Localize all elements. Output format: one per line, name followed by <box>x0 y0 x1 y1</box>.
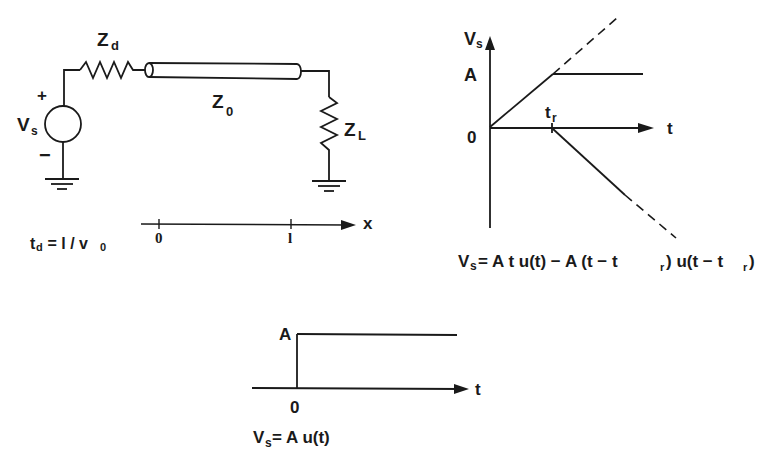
ramp-amplitude-label: A <box>464 65 477 85</box>
x-tick-l: l <box>288 230 292 246</box>
ramp-x-label: t <box>667 119 673 138</box>
ramp-formula-r1: r <box>660 261 665 273</box>
ramp-formula-sub: s <box>470 259 477 273</box>
ramp-formula-v: V <box>458 252 470 271</box>
ramp-y-label-sub: s <box>476 37 483 51</box>
ramp-y-label: V <box>464 29 476 49</box>
ramp-formula-r2: r <box>743 261 748 273</box>
ramp-x-arrow-icon <box>638 123 654 133</box>
driver-impedance-sub: d <box>111 38 119 53</box>
step-plot: A 0 t V s = A u(t) <box>252 325 481 450</box>
driver-impedance-label: Z <box>97 29 109 50</box>
load-resistor-icon <box>321 97 337 180</box>
line-impedance-label: Z <box>212 91 224 112</box>
step-formula-v: V <box>253 428 265 447</box>
ramp-origin-label: 0 <box>467 128 476 147</box>
diagram-canvas: + − V s Z d Z 0 Z L t d = l / v 0 0 l x <box>0 0 776 469</box>
plus-label: + <box>37 86 47 105</box>
step-x-axis <box>252 388 462 389</box>
ramp-rise-label-sub: r <box>552 111 557 125</box>
ramp-rise-label: t <box>545 103 551 122</box>
source-label-sub: s <box>31 124 38 138</box>
ramp-formula-mid: ) u(t − t <box>666 252 723 271</box>
line-impedance-sub: 0 <box>226 104 233 119</box>
source-top-wire <box>64 70 80 107</box>
step-formula-rest: = A u(t) <box>272 428 330 447</box>
step-flat-segment <box>297 334 457 335</box>
load-impedance-sub: L <box>358 128 366 143</box>
ramp-negative-segment <box>553 129 625 195</box>
delay-formula-sub: d <box>36 241 43 253</box>
transmission-line-icon <box>145 63 301 79</box>
step-x-arrow-icon <box>454 384 469 394</box>
step-amplitude-label: A <box>279 325 291 344</box>
step-origin-label: 0 <box>290 398 299 417</box>
position-axis <box>141 219 356 230</box>
x-axis-label: x <box>363 214 373 233</box>
voltage-source-icon <box>45 106 81 142</box>
ramp-dashed-extension-up <box>553 18 617 74</box>
ramp-plot: V s A 0 t r t V s = A t u(t) − A (t − t … <box>458 18 755 273</box>
load-ground-icon <box>312 181 346 191</box>
ramp-y-arrow-icon <box>485 36 495 50</box>
delay-formula-rest: = l / v <box>43 235 88 252</box>
source-ground-icon <box>45 179 79 189</box>
delay-formula-rest-sub: 0 <box>100 241 106 253</box>
ramp-rising-segment <box>490 74 553 127</box>
driver-resistor-icon <box>80 62 145 78</box>
ramp-dashed-extension-down <box>625 195 676 238</box>
minus-label: − <box>39 144 51 166</box>
source-label: V <box>17 114 30 135</box>
circuit-schematic: + − V s Z d Z 0 Z L t d = l / v 0 0 l x <box>17 29 373 253</box>
load-top-wire <box>301 71 329 97</box>
step-formula-sub: s <box>265 436 272 450</box>
x-tick-0: 0 <box>155 230 163 246</box>
ramp-formula-end: ) <box>749 252 755 271</box>
step-x-label: t <box>475 380 481 399</box>
ramp-formula-rest: = A t u(t) − A (t − t <box>478 252 618 271</box>
load-impedance-label: Z <box>344 119 356 140</box>
